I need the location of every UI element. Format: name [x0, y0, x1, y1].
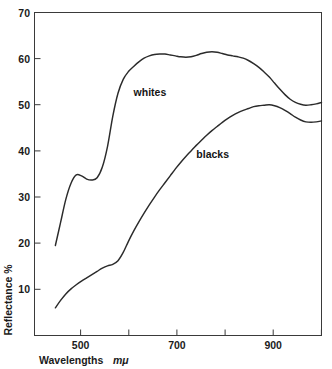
- y-tick-label-50: 50: [18, 99, 30, 111]
- series-label-whites: whites: [133, 86, 167, 98]
- x-axis-tickmarks: [81, 330, 322, 336]
- x-axis-title-unit: mμ: [113, 354, 129, 366]
- y-tick-label-70: 70: [18, 7, 30, 19]
- y-tick-label-40: 40: [18, 145, 30, 157]
- y-tick-label-60: 60: [18, 53, 30, 65]
- y-axis-title: Reflectance %: [2, 264, 14, 336]
- series-curve-whites: [55, 52, 321, 246]
- x-axis-title: Wavelengths: [39, 354, 104, 366]
- x-tick-label-500: 500: [72, 339, 90, 351]
- y-tick-label-30: 30: [18, 191, 30, 203]
- series-label-blacks: blacks: [196, 148, 229, 160]
- y-axis-tickmarks: [35, 13, 41, 290]
- x-axis-tick-labels: 500 700 900: [72, 339, 282, 351]
- series-curve-blacks: [55, 105, 321, 308]
- y-tick-label-20: 20: [18, 237, 30, 249]
- reflectance-chart-figure: 70 60 50 40 30 20 10 500 700 900 Wavelen…: [0, 0, 332, 369]
- y-axis-tick-labels: 70 60 50 40 30 20 10: [18, 7, 30, 296]
- reflectance-spectral-chart: 70 60 50 40 30 20 10 500 700 900 Wavelen…: [0, 0, 332, 369]
- x-tick-label-700: 700: [168, 339, 186, 351]
- x-tick-label-900: 900: [264, 339, 282, 351]
- y-tick-label-10: 10: [18, 283, 30, 295]
